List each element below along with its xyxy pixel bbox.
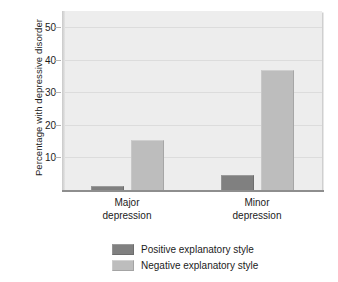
- y-tick-mark: [55, 92, 61, 93]
- x-axis-label-line: depression: [192, 209, 322, 222]
- y-tick-label: 40: [16, 54, 56, 65]
- bar: [131, 140, 164, 190]
- y-tick-mark: [55, 60, 61, 61]
- y-tick-label: 30: [16, 87, 56, 98]
- y-tick-mark: [55, 27, 61, 28]
- x-axis-label: Minordepression: [192, 196, 322, 222]
- gridline: [62, 60, 322, 61]
- y-tick-label: 20: [16, 119, 56, 130]
- gridline: [62, 27, 322, 28]
- bar: [221, 175, 254, 190]
- legend-swatch: [112, 260, 134, 271]
- legend-label: Positive explanatory style: [141, 244, 254, 255]
- legend-label: Negative explanatory style: [141, 260, 258, 271]
- legend-item: Negative explanatory style: [112, 259, 258, 271]
- legend-swatch: [112, 244, 134, 255]
- chart-legend: Positive explanatory styleNegative expla…: [112, 243, 258, 275]
- x-axis-line: [62, 190, 324, 192]
- x-axis-label-line: Minor: [192, 196, 322, 209]
- bar: [261, 70, 294, 190]
- plot-area: [62, 11, 322, 190]
- x-axis-label-line: Major: [62, 196, 192, 209]
- chart-figure: Percentage with depressive disorder 1020…: [0, 0, 338, 282]
- y-tick-mark: [55, 125, 61, 126]
- legend-item: Positive explanatory style: [112, 243, 258, 255]
- x-axis-label: Majordepression: [62, 196, 192, 222]
- y-tick-label: 50: [16, 22, 56, 33]
- y-tick-label: 10: [16, 152, 56, 163]
- y-tick-mark: [55, 157, 61, 158]
- x-axis-label-line: depression: [62, 209, 192, 222]
